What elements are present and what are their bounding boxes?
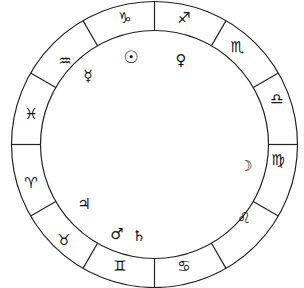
outer-ring [12, 2, 298, 288]
aries-sign-icon: ♈︎ [24, 176, 37, 191]
sign-divider [31, 73, 56, 88]
taurus-sign-icon: ♉︎ [57, 233, 70, 248]
cancer-sign-icon: ♋︎ [177, 259, 190, 274]
venus-planet-icon: ♀ [176, 53, 187, 68]
zodiac-wheel: ♑︎♐︎♏︎♎︎♍︎♌︎♋︎♊︎♉︎♈︎♓︎♒︎ ☉♀☿☽♃♂♄ [0, 0, 304, 288]
sign-dividers [12, 2, 298, 288]
inner-ring [41, 31, 269, 259]
pisces-sign-icon: ♓︎ [24, 107, 37, 122]
mercury-planet-icon: ☿ [83, 69, 92, 84]
sign-divider [253, 73, 278, 88]
mars-planet-icon: ♂ [110, 227, 123, 242]
sun-planet-icon: ☉ [123, 49, 138, 66]
wheel-rings [0, 0, 304, 288]
capricorn-sign-icon: ♑︎ [118, 11, 131, 26]
libra-sign-icon: ♎︎ [270, 92, 283, 107]
scorpio-sign-icon: ♏︎ [230, 40, 243, 55]
sign-divider [83, 243, 98, 268]
saturn-planet-icon: ♄ [132, 229, 145, 244]
sign-divider [31, 202, 56, 217]
moon-planet-icon: ☽ [239, 159, 252, 174]
sign-divider [253, 202, 278, 217]
jupiter-planet-icon: ♃ [77, 197, 90, 212]
sign-divider [212, 21, 227, 46]
sign-divider [212, 243, 227, 268]
leo-sign-icon: ♌︎ [237, 211, 250, 226]
virgo-sign-icon: ♍︎ [271, 153, 284, 168]
sagittarius-sign-icon: ♐︎ [177, 11, 190, 26]
gemini-sign-icon: ♊︎ [113, 259, 126, 274]
sign-divider [83, 21, 98, 46]
aquarius-sign-icon: ♒︎ [58, 54, 71, 69]
